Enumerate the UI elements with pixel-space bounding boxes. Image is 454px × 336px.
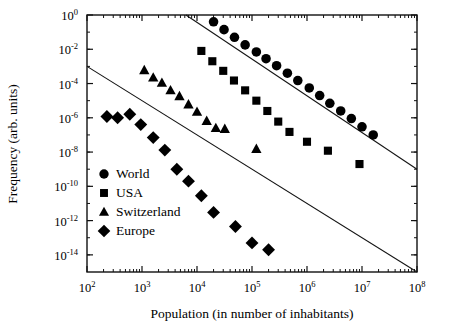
x-tick-label: 102 bbox=[79, 279, 96, 295]
data-point-circle bbox=[261, 54, 271, 64]
data-point-triangle bbox=[220, 124, 230, 133]
y-axis-title: Frequency (arb. units) bbox=[5, 84, 20, 204]
data-point-diamond bbox=[195, 189, 208, 202]
chart-legend: WorldUSASwitzerlandEurope bbox=[98, 166, 181, 238]
data-point-triangle bbox=[99, 207, 109, 216]
data-point-square bbox=[324, 147, 332, 155]
data-point-diamond bbox=[182, 175, 195, 188]
data-point-circle bbox=[230, 33, 240, 43]
data-point-diamond bbox=[170, 163, 183, 176]
x-tick-label: 105 bbox=[244, 279, 261, 295]
data-point-diamond bbox=[98, 225, 111, 238]
data-point-circle bbox=[252, 47, 262, 57]
data-point-diamond bbox=[229, 220, 242, 233]
data-point-diamond bbox=[123, 108, 136, 121]
data-point-triangle bbox=[192, 106, 202, 115]
y-tick-label: 10-14 bbox=[54, 247, 79, 263]
data-point-circle bbox=[240, 40, 250, 50]
data-point-triangle bbox=[139, 65, 149, 74]
figure-container: 102103104105106107108 10010-210-410-610-… bbox=[0, 0, 454, 336]
y-tick-label: 100 bbox=[61, 7, 78, 23]
legend-entry-europe[interactable]: Europe bbox=[98, 223, 155, 238]
y-tick-label: 10-8 bbox=[58, 144, 78, 160]
data-point-circle bbox=[336, 106, 346, 116]
data-point-square bbox=[100, 189, 108, 197]
x-tick-label: 108 bbox=[409, 279, 426, 295]
legend-entry-switzerland[interactable]: Switzerland bbox=[99, 204, 181, 219]
data-point-diamond bbox=[100, 110, 113, 123]
data-point-diamond bbox=[262, 243, 275, 256]
y-axis-tick-labels: 10010-210-410-610-810-1010-1210-14 bbox=[54, 7, 79, 263]
data-point-diamond bbox=[111, 111, 124, 124]
data-point-diamond bbox=[246, 236, 259, 249]
y-tick-label: 10-6 bbox=[58, 110, 78, 126]
data-point-circle bbox=[209, 17, 219, 27]
data-point-circle bbox=[283, 68, 293, 78]
data-point-diamond bbox=[134, 118, 147, 131]
data-point-square bbox=[208, 57, 216, 65]
legend-label: Europe bbox=[116, 223, 155, 238]
data-point-circle bbox=[293, 76, 303, 86]
data-point-triangle bbox=[148, 72, 158, 81]
x-tick-label: 104 bbox=[189, 279, 207, 295]
data-point-circle bbox=[315, 91, 325, 101]
x-tick-label: 103 bbox=[134, 279, 151, 295]
x-axis-title: Population (in number of inhabitants) bbox=[150, 306, 353, 321]
data-point-diamond bbox=[158, 144, 171, 157]
x-tick-label: 107 bbox=[354, 279, 371, 295]
data-point-square bbox=[303, 138, 311, 146]
data-point-triangle bbox=[202, 116, 212, 125]
legend-label: Switzerland bbox=[116, 204, 181, 219]
data-point-triangle bbox=[165, 85, 175, 94]
legend-label: USA bbox=[116, 185, 143, 200]
data-point-circle bbox=[304, 83, 314, 93]
data-point-square bbox=[241, 86, 249, 94]
data-point-square bbox=[197, 47, 205, 55]
data-point-circle bbox=[219, 25, 229, 35]
data-point-circle bbox=[99, 169, 108, 178]
data-series-group bbox=[100, 17, 378, 256]
data-point-diamond bbox=[207, 206, 220, 219]
y-tick-label: 10-2 bbox=[58, 41, 78, 57]
x-axis-tick-labels: 102103104105106107108 bbox=[79, 279, 426, 295]
legend-entry-world[interactable]: World bbox=[99, 166, 149, 181]
data-point-circle bbox=[347, 114, 357, 124]
x-tick-label: 106 bbox=[299, 279, 316, 295]
data-point-triangle bbox=[251, 144, 261, 153]
data-point-triangle bbox=[211, 123, 221, 132]
data-point-square bbox=[263, 107, 271, 115]
data-point-triangle bbox=[183, 99, 193, 108]
data-point-square bbox=[285, 128, 293, 136]
data-point-triangle bbox=[157, 77, 167, 86]
data-point-square bbox=[274, 118, 282, 126]
data-point-circle bbox=[325, 99, 335, 109]
y-tick-label: 10-12 bbox=[54, 213, 78, 229]
data-point-square bbox=[355, 160, 363, 168]
data-point-circle bbox=[272, 61, 282, 71]
data-point-square bbox=[252, 97, 260, 105]
data-point-square bbox=[219, 67, 227, 75]
legend-entry-usa[interactable]: USA bbox=[100, 185, 143, 200]
data-point-circle bbox=[357, 122, 367, 132]
legend-label: World bbox=[116, 166, 150, 181]
y-tick-label: 10-4 bbox=[58, 76, 78, 92]
data-point-triangle bbox=[174, 91, 184, 100]
data-point-circle bbox=[368, 130, 378, 140]
data-point-square bbox=[230, 76, 238, 84]
y-tick-label: 10-10 bbox=[54, 178, 78, 194]
population-frequency-scatter-chart: 102103104105106107108 10010-210-410-610-… bbox=[0, 0, 454, 336]
data-point-diamond bbox=[147, 131, 160, 144]
trend-line-upper-power-law bbox=[186, 15, 417, 169]
